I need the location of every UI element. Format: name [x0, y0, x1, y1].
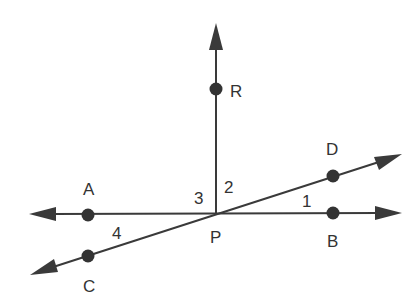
arrowhead-lower-left-icon [30, 259, 58, 275]
label-p: P [210, 228, 221, 247]
angle-label-2: 2 [224, 178, 233, 197]
angle-label-1: 1 [302, 192, 311, 211]
angle-label-4: 4 [112, 224, 121, 243]
label-b: B [327, 232, 338, 251]
point-c [82, 250, 95, 263]
point-a [82, 209, 95, 222]
arrowhead-upper-right-icon [374, 154, 402, 170]
point-b [327, 207, 340, 220]
label-d: D [326, 140, 338, 159]
label-a: A [83, 180, 95, 199]
geometry-diagram: R A B C D P 1 2 3 4 [0, 0, 418, 301]
angle-label-3: 3 [194, 189, 203, 208]
arrowhead-up-icon [209, 23, 223, 50]
arrowhead-right-icon [375, 206, 402, 220]
arrowhead-left-icon [29, 207, 56, 221]
point-d [327, 170, 340, 183]
label-r: R [230, 82, 242, 101]
point-r [210, 83, 223, 96]
label-c: C [83, 277, 95, 296]
